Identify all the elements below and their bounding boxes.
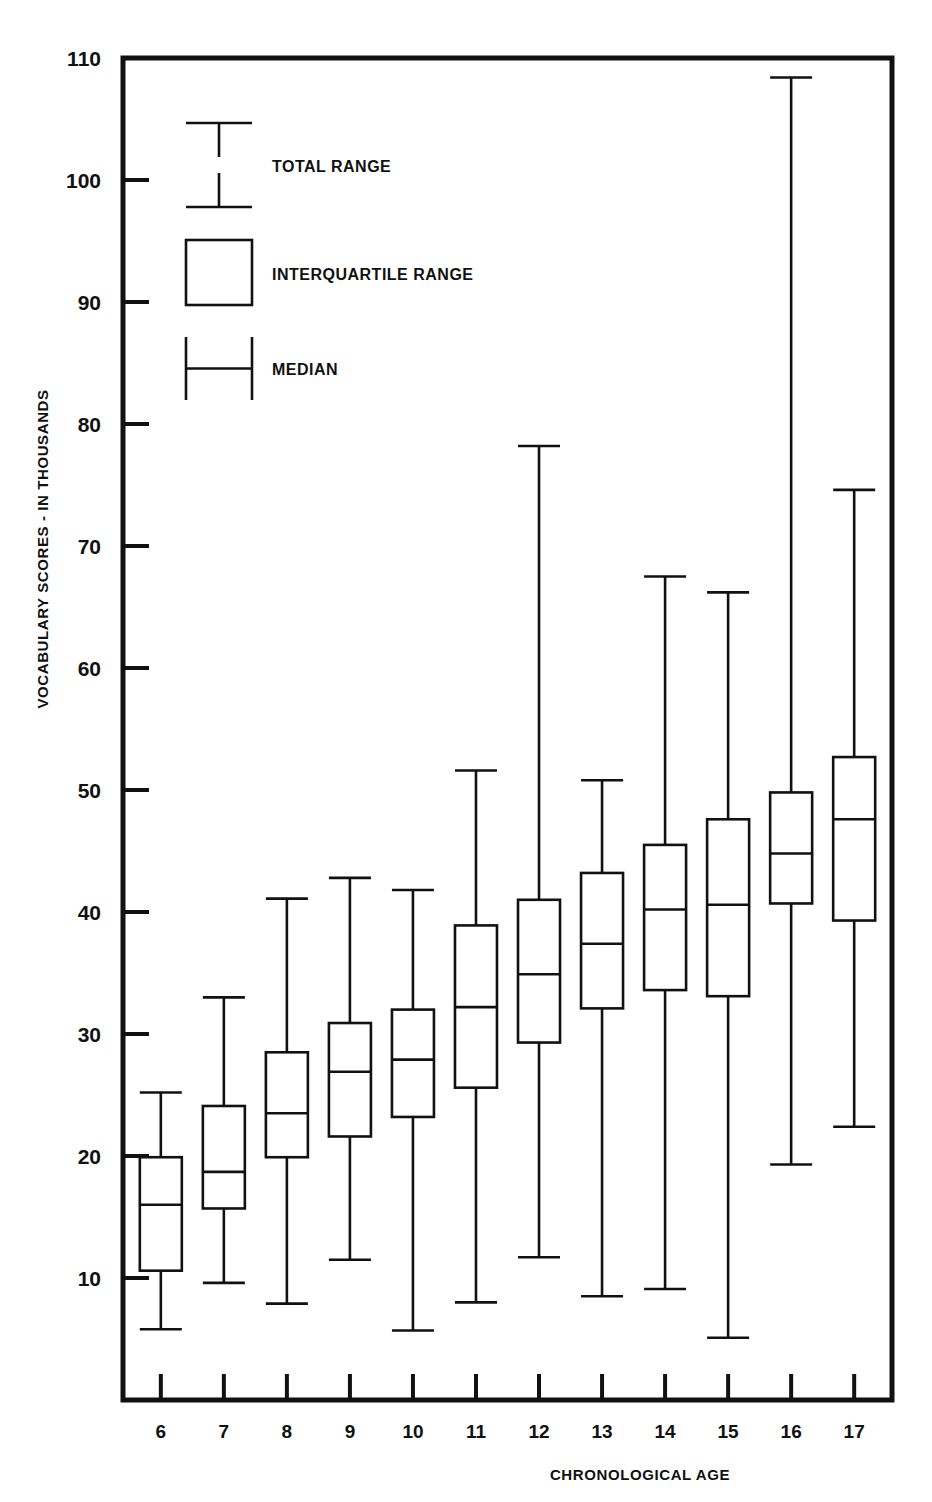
x-tick-label: 13 <box>591 1421 612 1442</box>
x-tick-label: 9 <box>345 1421 356 1442</box>
legend-label-interquartile-range: INTERQUARTILE RANGE <box>272 266 474 283</box>
x-tick-label: 8 <box>282 1421 293 1442</box>
interquartile-box <box>833 757 875 920</box>
boxplot-12 <box>518 446 560 1257</box>
boxplot-9 <box>329 878 371 1260</box>
x-tick-label: 15 <box>718 1421 740 1442</box>
x-axis: 67891011121314151617 <box>156 1374 865 1442</box>
legend-item-median: MEDIAN <box>186 337 338 400</box>
interquartile-box <box>266 1052 308 1157</box>
axis-titles: VOCABULARY SCORES - IN THOUSANDSCHRONOLO… <box>34 389 730 1483</box>
chart-legend: TOTAL RANGEINTERQUARTILE RANGEMEDIAN <box>186 123 474 400</box>
y-tick-label: 20 <box>78 1145 101 1168</box>
x-tick-label: 16 <box>781 1421 802 1442</box>
y-tick-label: 100 <box>66 169 101 192</box>
x-tick-label: 10 <box>402 1421 423 1442</box>
y-tick-label: 40 <box>78 901 101 924</box>
y-tick-label: 50 <box>78 779 101 802</box>
legend-label-total-range: TOTAL RANGE <box>272 158 391 175</box>
y-tick-label: 110 <box>67 47 101 70</box>
x-tick-label: 7 <box>219 1421 230 1442</box>
interquartile-box <box>203 1106 245 1208</box>
x-tick-label: 14 <box>655 1421 677 1442</box>
y-tick-label: 80 <box>78 413 101 436</box>
boxplot-8 <box>266 899 308 1304</box>
boxplot-16 <box>770 78 812 1165</box>
interquartile-box <box>392 1010 434 1117</box>
boxplot-figure: 102030405060708090100110 678910111213141… <box>0 0 932 1502</box>
boxplot-15 <box>707 592 749 1337</box>
y-axis-title: VOCABULARY SCORES - IN THOUSANDS <box>34 389 51 708</box>
legend-item-total-range: TOTAL RANGE <box>186 123 391 207</box>
boxplot-13 <box>581 780 623 1296</box>
legend-item-interquartile-range: INTERQUARTILE RANGE <box>186 240 474 305</box>
y-axis: 102030405060708090100110 <box>66 47 149 1290</box>
boxplot-14 <box>644 577 686 1289</box>
x-axis-title: CHRONOLOGICAL AGE <box>550 1466 730 1483</box>
y-tick-label: 60 <box>78 657 101 680</box>
boxplot-6 <box>140 1093 182 1330</box>
x-tick-label: 12 <box>528 1421 549 1442</box>
y-tick-label: 10 <box>78 1267 101 1290</box>
interquartile-box <box>707 819 749 996</box>
x-tick-label: 11 <box>466 1421 487 1442</box>
legend-label-median: MEDIAN <box>272 361 338 378</box>
interquartile-box <box>329 1023 371 1136</box>
interquartile-box <box>770 792 812 903</box>
y-tick-label: 30 <box>78 1023 101 1046</box>
interquartile-box <box>644 845 686 990</box>
y-tick-label: 70 <box>78 535 101 558</box>
interquartile-box <box>518 900 560 1043</box>
interquartile-box <box>581 873 623 1008</box>
legend-interquartile-box <box>186 240 252 305</box>
y-tick-label: 90 <box>78 291 101 314</box>
chart-canvas: 102030405060708090100110 678910111213141… <box>0 0 932 1502</box>
boxplot-10 <box>392 890 434 1330</box>
interquartile-box <box>140 1157 182 1270</box>
boxplot-17 <box>833 490 875 1127</box>
boxplot-7 <box>203 997 245 1282</box>
x-tick-label: 6 <box>156 1421 167 1442</box>
x-tick-label: 17 <box>844 1421 865 1442</box>
boxplot-11 <box>455 770 497 1302</box>
